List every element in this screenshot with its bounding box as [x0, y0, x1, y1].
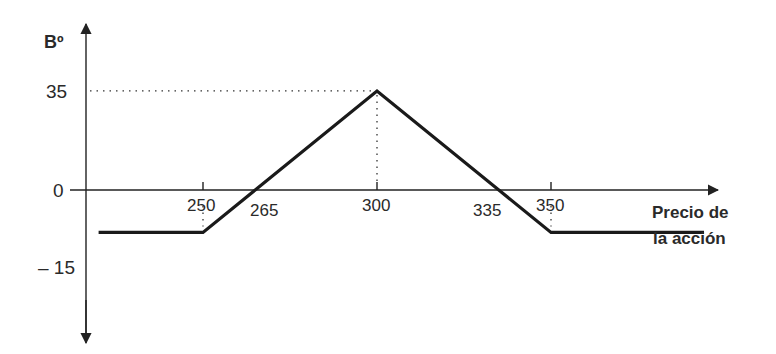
y-tick-0: 0 [53, 180, 64, 202]
x-label-335: 335 [473, 201, 501, 221]
x-label-250: 250 [187, 196, 215, 216]
x-label-350: 350 [536, 196, 564, 216]
x-label-265: 265 [249, 201, 279, 221]
x-axis-label-line2: la acción [653, 229, 726, 249]
y-axis-label: Bº [44, 32, 64, 53]
y-tick-35: 35 [46, 81, 67, 103]
y-tick-minus15: – 15 [38, 257, 75, 279]
payoff-chart [0, 0, 776, 354]
x-label-300: 300 [362, 196, 390, 216]
x-axis-label-line1: Precio de [652, 203, 729, 223]
